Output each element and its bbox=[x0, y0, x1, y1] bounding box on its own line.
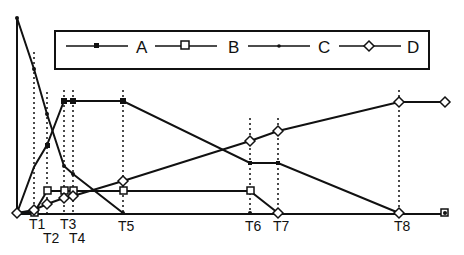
tick-label-t7: T7 bbox=[273, 218, 289, 234]
legend-label-c: C bbox=[318, 38, 330, 58]
series-d-line bbox=[17, 102, 445, 213]
tick-label-t8: T8 bbox=[394, 218, 410, 234]
legend-label-d: D bbox=[407, 38, 419, 58]
legend-label-a: A bbox=[136, 38, 147, 58]
legend bbox=[54, 30, 430, 70]
series-d-markers bbox=[12, 97, 450, 218]
series-b-line bbox=[17, 191, 278, 213]
tick-label-t5: T5 bbox=[118, 218, 134, 234]
tick-label-t4: T4 bbox=[69, 230, 85, 246]
series-a-markers bbox=[45, 98, 280, 165]
legend-label-b: B bbox=[228, 38, 239, 58]
tick-label-t6: T6 bbox=[245, 218, 261, 234]
tick-label-t2: T2 bbox=[43, 230, 59, 246]
